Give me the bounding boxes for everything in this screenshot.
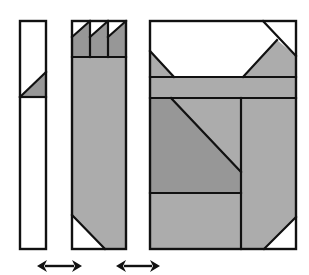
quilt-assembly-diagram: Quilt block assembly diagram xyxy=(0,0,309,275)
double-arrow-left-to-middle-icon xyxy=(37,260,82,272)
fabric-patch xyxy=(72,57,126,249)
fabric-patch xyxy=(150,193,241,249)
fabric-patch xyxy=(20,97,46,249)
middle-strip-unit xyxy=(72,21,126,249)
right-block-unit xyxy=(150,21,296,249)
diagram-canvas: Quilt block assembly diagram xyxy=(0,0,309,275)
units-layer xyxy=(20,21,296,249)
fabric-patch xyxy=(150,77,296,98)
arrows-layer xyxy=(37,260,160,272)
left-strip-unit xyxy=(20,21,46,249)
double-arrow-middle-to-right-icon xyxy=(116,260,160,272)
